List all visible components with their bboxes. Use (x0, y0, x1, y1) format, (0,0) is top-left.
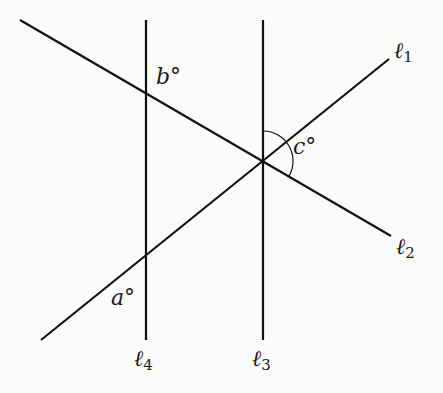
ell-glyph: ℓ (134, 346, 143, 371)
lines-canvas (0, 0, 443, 393)
subscript: 1 (403, 48, 413, 66)
angle-label-b: b° (156, 66, 181, 88)
ell-glyph: ℓ (396, 234, 405, 259)
geometry-diagram: b° c° a° ℓ1 ℓ2 ℓ3 ℓ4 (0, 0, 443, 393)
line-label-l4: ℓ4 (134, 348, 153, 373)
angle-label-c: c° (293, 136, 316, 158)
ell-glyph: ℓ (252, 346, 261, 371)
subscript: 4 (143, 356, 153, 374)
line-label-l2: ℓ2 (396, 236, 415, 261)
line-l2 (20, 20, 391, 236)
angle-label-a: a° (111, 287, 135, 309)
line-label-l3: ℓ3 (252, 348, 271, 373)
line-l1 (41, 59, 389, 340)
subscript: 2 (405, 244, 415, 262)
line-label-l1: ℓ1 (394, 40, 413, 65)
ell-glyph: ℓ (394, 38, 403, 63)
subscript: 3 (261, 356, 271, 374)
